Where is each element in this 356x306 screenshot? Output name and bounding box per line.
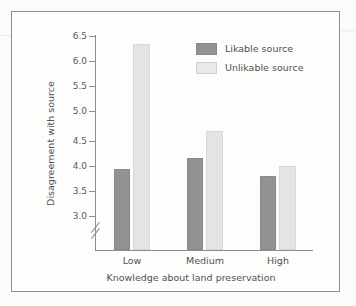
y-tick-4-0 (89, 166, 95, 167)
y-tick-5-5 (89, 86, 95, 87)
y-tick-6-5 (89, 36, 95, 37)
bar-low-likable (114, 169, 130, 250)
legend-item-unlikable: Unlikable source (196, 61, 304, 74)
legend-label-likable: Likable source (225, 44, 293, 54)
x-axis-title: Knowledge about land preservation (66, 272, 316, 283)
y-tick-3-5 (89, 191, 95, 192)
x-axis-line (95, 250, 313, 251)
chart-legend: Likable source Unlikable source (196, 42, 304, 80)
legend-item-likable: Likable source (196, 42, 304, 55)
x-tick-label-medium: Medium (170, 255, 240, 266)
bar-low-unlikable (133, 44, 150, 250)
legend-label-unlikable: Unlikable source (225, 63, 304, 73)
bar-medium-unlikable (206, 131, 223, 250)
y-tick-4-5 (89, 141, 95, 142)
y-tick-6-0 (89, 61, 95, 62)
bar-high-unlikable (279, 166, 296, 250)
y-axis-line (95, 35, 96, 250)
legend-swatch-likable-icon (196, 43, 217, 55)
x-tick-label-high: High (243, 255, 313, 266)
y-axis-title: Disagreement with source (45, 64, 56, 224)
y-tick-3-0 (89, 216, 95, 217)
legend-swatch-unlikable-icon (196, 62, 217, 74)
bar-high-likable (260, 176, 276, 250)
y-axis-break-icon (88, 222, 102, 238)
y-tick-5-0 (89, 111, 95, 112)
plot-area: 6.5 6.0 5.5 5.0 4.5 4.0 3.5 3.0 Low Me (0, 0, 356, 306)
bar-medium-likable (187, 158, 203, 250)
y-tick-label-6-5: 6.5 (47, 32, 87, 41)
x-tick-label-low: Low (97, 255, 167, 266)
chart-figure: 6.5 6.0 5.5 5.0 4.5 4.0 3.5 3.0 Low Me (0, 0, 356, 306)
